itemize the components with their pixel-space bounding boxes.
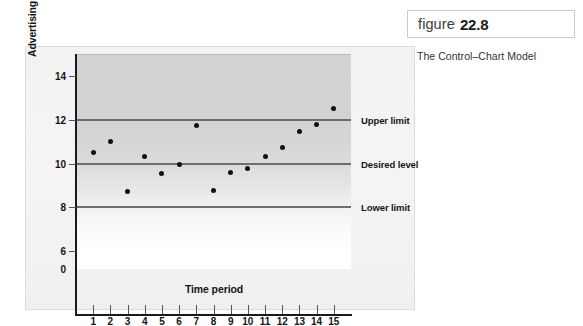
data-point: [91, 150, 96, 155]
figure-caption: The Control–Chart Model: [407, 50, 575, 62]
x-tick-mark: [317, 305, 318, 314]
x-tick-mark: [214, 305, 215, 314]
x-tick-mark: [179, 305, 180, 314]
data-point: [142, 154, 147, 159]
y-tick-mark: [69, 76, 76, 77]
data-point: [297, 129, 302, 134]
y-axis-title: Advertising expense/Sales ratio: [24, 0, 38, 57]
data-point: [194, 123, 199, 128]
figure-header: figure 22.8 The Control–Chart Model: [407, 10, 575, 62]
y-axis-title-text: Advertising expense/Sales ratio: [26, 0, 38, 57]
x-tick-mark: [128, 305, 129, 314]
y-tick-label: 8: [26, 202, 66, 213]
x-tick-mark: [110, 305, 111, 314]
data-point: [108, 139, 113, 144]
figure-number-box: figure 22.8: [407, 10, 575, 38]
reference-line-upper-limit: [76, 119, 351, 121]
figure-word-label: figure: [418, 16, 455, 32]
y-tick-label: 6: [26, 246, 66, 257]
reference-line-lower-limit: [76, 206, 351, 208]
x-tick-mark: [334, 305, 335, 314]
annotation-desired-level: Desired level: [361, 158, 418, 169]
data-point: [280, 145, 285, 150]
data-point: [125, 189, 130, 194]
data-point: [263, 154, 268, 159]
y-tick-label: 14: [26, 71, 66, 82]
y-axis-line: [75, 54, 77, 315]
x-tick-mark: [248, 305, 249, 314]
plot-top-border: [76, 54, 351, 55]
annotation-lower-limit: Lower limit: [361, 202, 410, 213]
x-tick-mark: [162, 305, 163, 314]
data-point: [228, 170, 233, 175]
x-tick-mark: [93, 305, 94, 314]
x-tick-mark: [145, 305, 146, 314]
y-tick-mark: [69, 164, 76, 165]
x-tick-mark: [231, 305, 232, 314]
x-tick-mark: [265, 305, 266, 314]
reference-line-desired-level: [76, 163, 351, 165]
x-tick-mark: [299, 305, 300, 314]
data-point: [245, 166, 250, 171]
x-axis-title: Time period: [76, 283, 352, 295]
y-tick-mark: [69, 120, 76, 121]
y-tick-label: 0: [26, 264, 66, 275]
data-point: [211, 188, 216, 193]
y-tick-label: 10: [26, 158, 66, 169]
plot-area: [76, 54, 351, 269]
data-point: [159, 171, 164, 176]
figure-number: 22.8: [460, 16, 488, 33]
y-tick-label: 12: [26, 114, 66, 125]
x-tick-mark: [196, 305, 197, 314]
x-tick-label: 15: [324, 316, 344, 326]
data-point: [177, 162, 182, 167]
data-point: [331, 106, 336, 111]
y-tick-mark: [69, 251, 76, 252]
x-tick-mark: [282, 305, 283, 314]
y-tick-mark: [69, 207, 76, 208]
annotation-upper-limit: Upper limit: [361, 114, 410, 125]
data-point: [314, 122, 319, 127]
chart-panel: Advertising expense/Sales ratio 06810121…: [25, 46, 415, 310]
